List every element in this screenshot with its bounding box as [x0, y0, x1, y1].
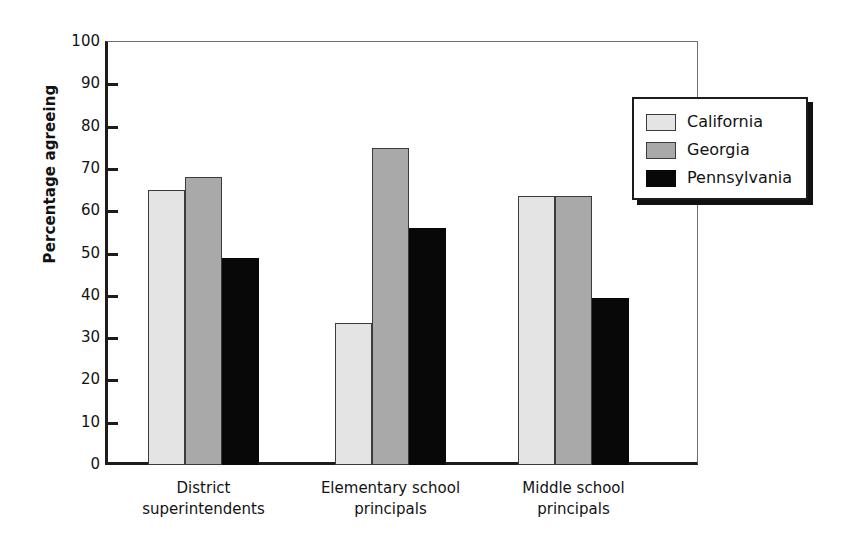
x-axis-label-line: Middle school	[464, 478, 684, 499]
bars-layer	[0, 0, 851, 550]
bar-chart-figure: Percentage agreeing 10090807060504030201…	[0, 0, 851, 550]
bar-pennsylvania-group-1	[222, 258, 259, 465]
x-axis-label-line: principals	[464, 499, 684, 520]
legend-label: Pennsylvania	[687, 170, 792, 186]
bar-georgia-group-2	[372, 148, 409, 465]
legend-swatch-pennsylvania	[646, 170, 676, 187]
legend-swatch-california	[646, 114, 676, 131]
legend-label: California	[687, 114, 763, 130]
bar-georgia-group-3	[555, 196, 592, 465]
x-axis-label-group-3: Middle schoolprincipals	[464, 478, 684, 520]
legend-item-georgia: Georgia	[646, 136, 806, 164]
legend-item-california: California	[646, 108, 806, 136]
legend-item-pennsylvania: Pennsylvania	[646, 164, 806, 192]
bar-california-group-2	[335, 323, 372, 465]
bar-california-group-1	[148, 190, 185, 465]
legend-box: CaliforniaGeorgiaPennsylvania	[632, 97, 808, 200]
bar-pennsylvania-group-2	[409, 228, 446, 465]
bar-california-group-3	[518, 196, 555, 465]
legend-label: Georgia	[687, 142, 750, 158]
bar-georgia-group-1	[185, 177, 222, 465]
legend-swatch-georgia	[646, 142, 676, 159]
bar-pennsylvania-group-3	[592, 298, 629, 465]
